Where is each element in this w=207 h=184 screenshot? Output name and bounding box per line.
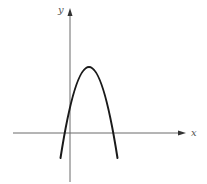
y-axis-label: y	[57, 4, 64, 15]
parabola-curve	[61, 67, 118, 158]
y-axis-arrow-icon	[68, 8, 73, 16]
x-axis-arrow-icon	[178, 131, 186, 136]
parabola-figure: x y	[0, 0, 207, 184]
x-axis-label: x	[191, 127, 197, 138]
